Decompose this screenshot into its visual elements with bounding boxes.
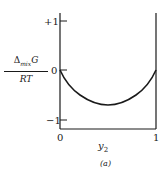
figure-caption: (a) <box>100 159 111 168</box>
x-tick-label-0: 0 <box>57 132 63 143</box>
mix-subscript: mix <box>20 60 31 67</box>
y-tick-label-minus1: −1 <box>46 115 61 126</box>
y-axis-label-numerator: ΔmixG <box>4 55 48 72</box>
y-axis-label: ΔmixG RT <box>4 55 48 85</box>
y-tick-label-plus1: +1 <box>44 16 59 27</box>
x-tick-label-1: 1 <box>153 132 159 143</box>
x-axis-label: y2 <box>98 140 108 154</box>
x-axis-label-subscript: 2 <box>104 146 108 154</box>
gibbs-symbol: G <box>31 55 38 65</box>
mixing-gibbs-curve <box>60 70 156 105</box>
y-tick-label-0: 0 <box>51 65 57 76</box>
chart-plot: +1 0 −1 0 1 <box>0 0 165 177</box>
y-axis-label-denominator: RT <box>4 72 48 85</box>
